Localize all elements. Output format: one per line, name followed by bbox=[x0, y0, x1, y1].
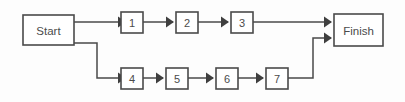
node-2[interactable]: 2 bbox=[176, 12, 198, 33]
flowchart-svg: Start 1 2 3 Finish 4 bbox=[0, 0, 405, 102]
node-3[interactable]: 3 bbox=[231, 12, 253, 33]
node-label: 3 bbox=[239, 17, 245, 29]
node-finish[interactable]: Finish bbox=[334, 14, 383, 46]
edge-1-to-2 bbox=[143, 17, 174, 28]
arrowhead-icon bbox=[324, 17, 332, 28]
node-5[interactable]: 5 bbox=[166, 68, 188, 89]
node-4[interactable]: 4 bbox=[121, 68, 143, 89]
arrowhead-icon bbox=[324, 33, 332, 44]
edge-5-to-6 bbox=[188, 73, 214, 84]
node-label: 5 bbox=[174, 73, 180, 85]
arrowhead-icon bbox=[166, 17, 174, 28]
edge-layer bbox=[74, 17, 332, 84]
arrowhead-icon bbox=[156, 73, 164, 84]
node-6[interactable]: 6 bbox=[216, 68, 238, 89]
node-label: Start bbox=[36, 25, 61, 37]
edge-4-to-5 bbox=[143, 73, 164, 84]
node-label: 4 bbox=[129, 73, 135, 85]
arrowhead-icon bbox=[221, 17, 229, 28]
node-label: 1 bbox=[129, 17, 135, 29]
edge-3-to-finish bbox=[253, 17, 332, 28]
node-start[interactable]: Start bbox=[23, 15, 74, 45]
diagram-canvas: Start 1 2 3 Finish 4 bbox=[0, 0, 405, 102]
edge-6-to-7 bbox=[238, 73, 264, 84]
edge-line bbox=[288, 38, 331, 78]
node-label: 6 bbox=[224, 73, 230, 85]
edge-start-to-1 bbox=[74, 17, 126, 28]
arrowhead-icon bbox=[256, 73, 264, 84]
edge-2-to-3 bbox=[198, 17, 229, 28]
node-7[interactable]: 7 bbox=[266, 68, 288, 89]
node-label: 2 bbox=[184, 17, 190, 29]
arrowhead-icon bbox=[206, 73, 214, 84]
edge-start-to-4 bbox=[74, 43, 126, 84]
node-1[interactable]: 1 bbox=[121, 12, 143, 33]
node-label: 7 bbox=[274, 73, 280, 85]
edge-line bbox=[74, 43, 118, 78]
edge-7-to-finish bbox=[288, 33, 332, 79]
node-label: Finish bbox=[343, 25, 374, 37]
